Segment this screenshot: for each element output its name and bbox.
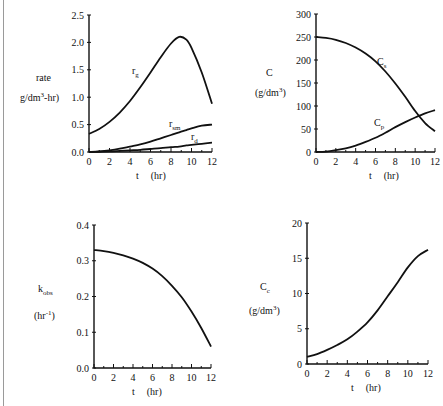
label-cp: Cp bbox=[374, 117, 385, 131]
x-tick-label: 8 bbox=[170, 372, 175, 383]
x-tick-label: 12 bbox=[423, 368, 433, 379]
curve-c-c bbox=[307, 250, 428, 357]
y-tick-label: 15 bbox=[292, 253, 302, 264]
label-rd: rd bbox=[191, 131, 198, 145]
x-tick-label: 6 bbox=[148, 156, 153, 167]
chart-rates: rate g/dm3-hr) t(hr) rg rsm rd 024681012… bbox=[20, 10, 217, 183]
y-tick-label: 0.1 bbox=[77, 327, 90, 338]
axis-lines bbox=[307, 223, 428, 364]
x-tick-label: 2 bbox=[111, 372, 116, 383]
y-tick-label: 10 bbox=[292, 288, 302, 299]
x-tick-label: 0 bbox=[87, 156, 92, 167]
x-tick-label: 12 bbox=[207, 156, 217, 167]
x-tick-label: 8 bbox=[169, 156, 174, 167]
y-tick-label: 0 bbox=[306, 147, 311, 158]
x-tick-label: 4 bbox=[353, 156, 358, 167]
xlabel: t(hr) bbox=[351, 382, 381, 394]
xlabel: t(hr) bbox=[136, 170, 166, 182]
x-tick-label: 0 bbox=[92, 372, 97, 383]
x-tick-label: 6 bbox=[150, 372, 155, 383]
curve-r-g bbox=[89, 37, 212, 134]
y-tick-label: 200 bbox=[296, 55, 311, 66]
x-tick-label: 10 bbox=[187, 372, 197, 383]
y-tick-label: 1.0 bbox=[72, 92, 85, 103]
x-tick-label: 2 bbox=[107, 156, 112, 167]
x-tick-label: 0 bbox=[305, 368, 310, 379]
y-tick-label: 0.3 bbox=[77, 255, 90, 266]
x-tick-label: 8 bbox=[393, 156, 398, 167]
y-tick-label: 0.2 bbox=[77, 291, 90, 302]
curve-k-obs bbox=[94, 250, 211, 347]
x-tick-label: 4 bbox=[345, 368, 350, 379]
x-tick-label: 8 bbox=[385, 368, 390, 379]
figure-canvas: rate g/dm3-hr) t(hr) rg rsm rd 024681012… bbox=[0, 0, 443, 406]
ylabel-line1: Cc bbox=[260, 281, 270, 295]
x-tick-label: 12 bbox=[206, 372, 216, 383]
chart-kobs: kobs (hr-1) t(hr) 0246810120.00.10.20.30… bbox=[34, 220, 216, 399]
y-tick-label: 2.5 bbox=[72, 10, 85, 21]
label-rg: rg bbox=[132, 65, 139, 79]
label-rsm: rsm bbox=[169, 118, 181, 132]
ylabel-line1: C bbox=[266, 67, 273, 78]
y-tick-label: 1.5 bbox=[72, 64, 85, 75]
x-tick-label: 2 bbox=[325, 368, 330, 379]
y-tick-label: 0.0 bbox=[72, 147, 85, 158]
x-tick-label: 10 bbox=[187, 156, 197, 167]
x-tick-label: 6 bbox=[373, 156, 378, 167]
ylabel-line2: (g/dm3) bbox=[255, 86, 286, 99]
ylabel-line2: g/dm3-hr) bbox=[20, 91, 59, 104]
y-tick-label: 2.0 bbox=[72, 37, 85, 48]
x-tick-label: 4 bbox=[128, 156, 133, 167]
ylabel-line1: rate bbox=[36, 72, 52, 83]
x-tick-label: 2 bbox=[333, 156, 338, 167]
x-tick-label: 10 bbox=[403, 368, 413, 379]
y-tick-label: 0.0 bbox=[77, 363, 90, 374]
y-tick-label: 150 bbox=[296, 78, 311, 89]
ylabel-line1: kobs bbox=[38, 283, 53, 297]
y-tick-label: 50 bbox=[301, 124, 311, 135]
y-tick-label: 0.4 bbox=[77, 220, 90, 231]
y-tick-label: 300 bbox=[296, 9, 311, 20]
x-tick-label: 6 bbox=[365, 368, 370, 379]
axis-lines bbox=[316, 14, 435, 152]
x-tick-label: 12 bbox=[430, 156, 440, 167]
ylabel-line2: (g/dm3) bbox=[249, 304, 280, 317]
xlabel: t(hr) bbox=[369, 170, 399, 182]
y-tick-label: 5 bbox=[297, 323, 302, 334]
x-tick-label: 10 bbox=[410, 156, 420, 167]
xlabel: t(hr) bbox=[132, 386, 162, 398]
x-tick-label: 0 bbox=[314, 156, 319, 167]
y-tick-label: 250 bbox=[296, 32, 311, 43]
chart-concentrations: C (g/dm3) t(hr) Cs Cp 024681012050100150… bbox=[255, 9, 440, 183]
y-tick-label: 0.5 bbox=[72, 119, 85, 130]
y-tick-label: 0 bbox=[297, 359, 302, 370]
x-tick-label: 4 bbox=[131, 372, 136, 383]
axis-lines bbox=[94, 225, 211, 368]
y-tick-label: 20 bbox=[292, 218, 302, 229]
y-tick-label: 100 bbox=[296, 101, 311, 112]
ylabel-line2: (hr-1) bbox=[34, 309, 55, 322]
chart-cell-concentration: Cc (g/dm3) t(hr) 02468101205101520 bbox=[249, 218, 433, 395]
